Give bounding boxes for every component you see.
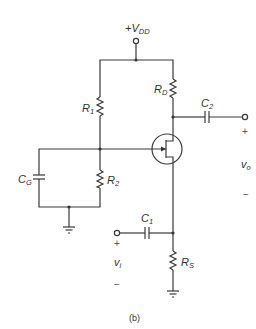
svg-text:RS: RS — [181, 256, 194, 270]
input-label: vi — [114, 256, 122, 270]
svg-text:C1: C1 — [141, 212, 153, 226]
resistor-rd: RD — [154, 79, 176, 134]
svg-text:C2: C2 — [201, 97, 214, 111]
vdd-terminal — [133, 38, 138, 43]
capacitor-cg: CG — [18, 149, 100, 207]
vdd-label: +VDD — [125, 22, 150, 36]
input-plus: + — [114, 238, 120, 249]
vdd-supply: +VDD — [125, 22, 150, 62]
svg-text:R1: R1 — [82, 102, 94, 116]
output-label: vo — [241, 158, 251, 172]
output-terminal — [242, 114, 247, 119]
input-minus: − — [114, 279, 120, 290]
ground-gate — [63, 205, 75, 233]
capacitor-c2: C2 — [173, 97, 242, 123]
capacitor-c1: C1 — [120, 212, 173, 239]
jfet-amplifier-schematic: +VDD R1 RD C2 + vo − — [0, 0, 256, 329]
svg-text:CG: CG — [18, 173, 32, 187]
resistor-rs: RS — [170, 233, 194, 291]
svg-text:RD: RD — [154, 83, 168, 97]
ground-source — [167, 291, 179, 297]
resistor-r2: R2 — [97, 170, 120, 188]
resistor-r1: R1 — [82, 97, 103, 170]
output-plus: + — [242, 126, 248, 137]
svg-text:R2: R2 — [107, 174, 120, 188]
figure-caption: (b) — [129, 313, 140, 323]
output-minus: − — [243, 189, 249, 200]
input-terminal — [114, 230, 119, 235]
